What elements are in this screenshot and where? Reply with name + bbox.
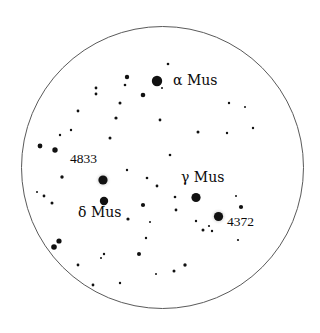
field-star — [208, 225, 210, 227]
field-star — [197, 131, 200, 134]
field-star — [155, 273, 157, 275]
star-chart: α Musγ Musδ Mus48334372 — [0, 0, 320, 333]
field-star — [124, 84, 127, 87]
field-star — [119, 282, 121, 284]
sky-canvas — [0, 0, 320, 333]
field-star — [126, 217, 129, 220]
field-star — [145, 237, 147, 239]
field-star — [252, 127, 254, 129]
field-star — [43, 195, 46, 198]
field-star — [226, 132, 228, 134]
field-star — [161, 87, 163, 89]
field-star — [167, 63, 170, 66]
field-star — [56, 238, 61, 243]
field-star — [100, 257, 102, 259]
field-star — [175, 209, 178, 212]
field-star — [60, 175, 63, 178]
field-star — [52, 147, 57, 152]
field-star — [149, 221, 151, 223]
field-star — [51, 202, 54, 205]
field-star — [95, 93, 98, 96]
label-gamma-mus: γ Mus — [181, 170, 224, 184]
field-star — [173, 270, 176, 273]
label-ngc-4372: 4372 — [227, 215, 254, 229]
field-star — [146, 177, 149, 180]
field-star — [195, 220, 197, 222]
field-star — [141, 203, 145, 207]
star-gamma-mus — [191, 193, 200, 202]
field-star — [126, 169, 128, 171]
label-ngc-4833: 4833 — [70, 152, 97, 166]
field-star — [36, 191, 38, 193]
field-star — [169, 154, 172, 157]
field-star — [156, 185, 159, 188]
field-star — [59, 134, 61, 136]
field-star — [235, 195, 237, 197]
field-star — [141, 93, 146, 98]
chart-background — [0, 0, 320, 333]
field-star — [103, 253, 105, 255]
field-star — [92, 284, 95, 287]
field-star — [211, 230, 213, 232]
field-star — [202, 229, 205, 232]
field-star — [125, 75, 129, 79]
field-star — [228, 102, 230, 104]
field-star — [77, 264, 80, 267]
star-alpha-mus — [152, 76, 162, 86]
cluster-ngc-4833 — [98, 175, 107, 184]
field-star — [114, 116, 117, 119]
cluster-ngc-4372 — [214, 212, 223, 221]
field-star — [244, 106, 246, 108]
field-star — [159, 119, 162, 122]
field-star — [70, 129, 72, 131]
field-star — [183, 263, 186, 266]
field-star — [237, 239, 239, 241]
label-alpha-mus: α Mus — [173, 73, 217, 87]
field-star — [51, 244, 57, 250]
field-star — [239, 205, 243, 209]
field-star — [95, 87, 98, 90]
field-star — [174, 196, 177, 199]
field-star — [77, 110, 80, 113]
field-star — [137, 252, 141, 256]
field-star — [109, 137, 112, 140]
field-star — [38, 144, 43, 149]
label-delta-mus: δ Mus — [78, 205, 121, 219]
field-star — [119, 102, 122, 105]
